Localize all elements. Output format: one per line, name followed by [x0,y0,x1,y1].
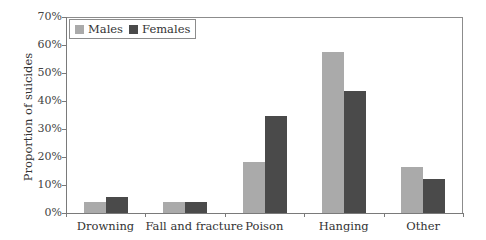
y-tick [62,17,66,18]
females-swatch-icon [129,25,138,34]
x-tick [384,213,385,217]
bar-females-other [423,179,445,213]
legend-item-females: Females [129,22,190,36]
bar-chart: 0%10%20%30%40%50%60%70% DrowningFall and… [0,0,486,240]
y-axis-label: Proportion of suicides [21,53,35,181]
bar-females-drowning [106,197,128,213]
y-tick [62,45,66,46]
x-tick-label: Fall and fracture [145,219,224,233]
x-tick [463,213,464,217]
y-tick-label: 50% [38,67,62,79]
bar-females-poison [265,116,287,213]
x-tick-label: Hanging [304,219,383,233]
legend-item-males: Males [75,22,123,36]
x-tick-label: Other [384,219,463,233]
y-tick-label: 20% [38,151,62,163]
y-tick [62,101,66,102]
y-axis [66,17,67,214]
x-tick-label: Poison [225,219,304,233]
y-tick-label: 30% [38,123,62,135]
y-tick [62,129,66,130]
bar-males-hanging [322,52,344,213]
legend-label-males: Males [88,22,123,36]
x-axis [66,213,464,214]
y-tick [62,157,66,158]
bar-females-hanging [344,91,366,213]
x-tick [145,213,146,217]
y-tick-label: 10% [38,179,62,191]
y-tick-label: 70% [38,11,62,23]
bar-males-poison [243,162,265,213]
x-tick-label: Drowning [66,219,145,233]
y-tick-label: 0% [45,207,62,219]
y-tick-label: 40% [38,95,62,107]
x-tick [225,213,226,217]
bar-males-fall-and-fracture [163,202,185,213]
y-tick [62,185,66,186]
legend-label-females: Females [142,22,190,36]
bar-males-drowning [84,202,106,213]
y-tick-label: 60% [38,39,62,51]
x-tick [304,213,305,217]
bar-males-other [401,167,423,213]
males-swatch-icon [75,25,84,34]
bar-females-fall-and-fracture [185,202,207,213]
y-tick [62,73,66,74]
legend: Males Females [69,19,196,39]
x-tick [66,213,67,217]
